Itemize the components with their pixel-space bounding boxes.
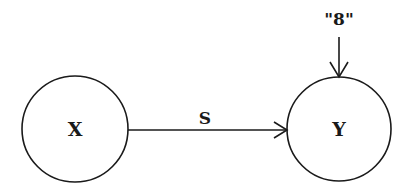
node-y: Y [287, 77, 391, 181]
edge-label: S [199, 108, 211, 128]
node-x: X [22, 76, 128, 182]
input-label: "8" [324, 9, 354, 29]
input-to-y: "8" [324, 9, 354, 77]
state-diagram: X Y S "8" [0, 0, 415, 195]
node-y-label: Y [331, 118, 346, 140]
node-x-label: X [68, 118, 83, 140]
edge-x-to-y: S [128, 108, 287, 138]
